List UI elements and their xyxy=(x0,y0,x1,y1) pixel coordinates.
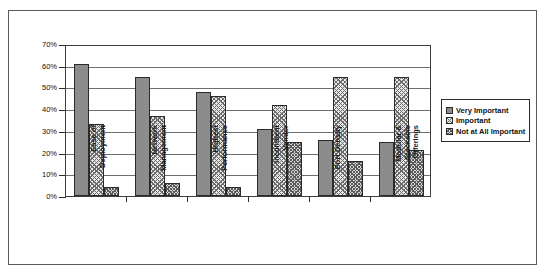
legend-swatch-icon xyxy=(446,107,453,114)
y-axis-tick-label: 70% xyxy=(11,41,57,49)
x-axis-tick xyxy=(370,197,371,202)
y-axis-tick xyxy=(59,197,65,198)
bar-2-series-1 xyxy=(135,77,150,196)
y-axis-tick-label: 50% xyxy=(11,84,57,92)
y-axis-tick xyxy=(59,88,65,89)
y-axis-tick-label: 10% xyxy=(11,171,57,179)
plot-area xyxy=(65,45,431,197)
chart-frame: 0%10%20%30%40%50%60%70% Ease of Deployme… xyxy=(8,10,537,265)
legend-item-label: Important xyxy=(456,116,491,125)
bar-4-series-1 xyxy=(257,129,272,196)
y-axis-tick-label: 30% xyxy=(11,128,57,136)
legend-item-3[interactable]: Not at All Important xyxy=(446,127,526,136)
bar-5-series-1 xyxy=(318,140,333,196)
gridline xyxy=(66,154,430,155)
legend-swatch-icon xyxy=(446,128,453,135)
bar-5-series-3 xyxy=(348,161,363,196)
legend-item-1[interactable]: Very Important xyxy=(446,106,526,115)
legend-item-label: Not at All Important xyxy=(456,127,525,136)
legend-item-2[interactable]: Important xyxy=(446,116,526,125)
gridline xyxy=(66,175,430,176)
y-axis-tick-label: 0% xyxy=(11,193,57,201)
y-axis-tick xyxy=(59,67,65,68)
x-axis-label-5: Port Density xyxy=(334,125,343,205)
x-axis-tick xyxy=(187,197,188,202)
x-axis-tick xyxy=(126,197,127,202)
y-axis-tick-label: 60% xyxy=(11,63,57,71)
legend-swatch-icon xyxy=(446,117,453,124)
y-axis-tick xyxy=(59,45,65,46)
bar-1-series-1 xyxy=(74,64,89,196)
gridline xyxy=(66,132,430,133)
gridline xyxy=(66,67,430,68)
gridline xyxy=(66,110,430,111)
y-axis-labels: 0%10%20%30%40%50%60%70% xyxy=(9,11,57,266)
x-axis-tick xyxy=(309,197,310,202)
y-axis-tick xyxy=(59,175,65,176)
x-axis-label-3: Highest Performance xyxy=(212,125,229,205)
bar-6-series-1 xyxy=(379,142,394,196)
legend-item-label: Very Important xyxy=(456,106,509,115)
bar-3-series-1 xyxy=(196,92,211,196)
y-axis-tick xyxy=(59,110,65,111)
chart-legend: Very ImportantImportantNot at All Import… xyxy=(441,99,530,142)
x-axis-label-1: Ease of Deployment xyxy=(90,125,107,205)
x-axis-label-6: Modular & Stackable Offerings xyxy=(395,125,421,205)
y-axis-tick-label: 20% xyxy=(11,150,57,158)
x-axis-tick xyxy=(248,197,249,202)
gridline xyxy=(66,88,430,89)
x-axis-label-4: Incumbent Vendor xyxy=(273,125,290,205)
y-axis-tick xyxy=(59,132,65,133)
x-axis-label-2: Network Management xyxy=(151,125,168,205)
y-axis-tick-label: 40% xyxy=(11,106,57,114)
y-axis-tick xyxy=(59,154,65,155)
